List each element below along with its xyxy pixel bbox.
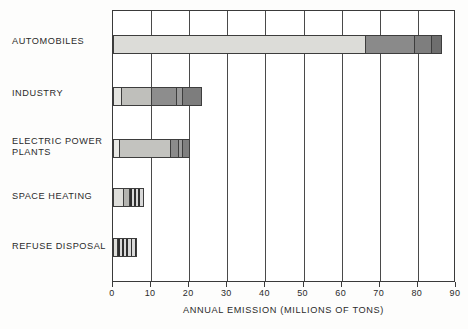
x-tick-label: 80 xyxy=(403,288,431,298)
tick-40 xyxy=(264,282,265,287)
tick-10 xyxy=(150,282,151,287)
bar-segment xyxy=(113,35,366,54)
chart-figure: AUTOMOBILES INDUSTRY ELECTRIC POWER PLAN… xyxy=(0,0,468,329)
bar-segment xyxy=(121,87,152,106)
tick-0 xyxy=(112,282,113,287)
x-tick-label: 70 xyxy=(365,288,393,298)
bar-row xyxy=(113,87,201,106)
bar-segment xyxy=(182,139,191,158)
tick-70 xyxy=(379,282,380,287)
x-tick-label: 40 xyxy=(250,288,278,298)
category-label-electric-power-plants: ELECTRIC POWER PLANTS xyxy=(12,136,112,157)
bar-row xyxy=(113,238,136,257)
x-tick-label: 60 xyxy=(327,288,355,298)
category-label-automobiles: AUTOMOBILES xyxy=(12,36,112,47)
x-axis-title: ANNUAL EMISSION (MILLIONS OF TONS) xyxy=(112,305,455,315)
bar-segment xyxy=(119,139,171,158)
x-tick-label: 90 xyxy=(441,288,468,298)
x-tick-label: 10 xyxy=(136,288,164,298)
x-tick-label: 20 xyxy=(174,288,202,298)
bar-segment xyxy=(129,188,144,207)
bar-row xyxy=(113,139,189,158)
category-label-refuse-disposal: REFUSE DISPOSAL xyxy=(12,241,112,252)
category-label-space-heating: SPACE HEATING xyxy=(12,191,112,202)
bar-row xyxy=(113,188,143,207)
category-label-industry: INDUSTRY xyxy=(12,88,112,99)
bar-segment xyxy=(365,35,416,54)
tick-90 xyxy=(455,282,456,287)
x-tick-label: 0 xyxy=(98,288,126,298)
x-tick-label: 50 xyxy=(289,288,317,298)
tick-60 xyxy=(341,282,342,287)
bar-segment xyxy=(414,35,432,54)
bar-segment xyxy=(117,238,137,257)
bar-segment xyxy=(151,87,177,106)
bar-segment xyxy=(431,35,442,54)
tick-30 xyxy=(226,282,227,287)
plot-area xyxy=(112,10,455,282)
bar-row xyxy=(113,35,441,54)
tick-20 xyxy=(188,282,189,287)
bar-segment xyxy=(182,87,202,106)
tick-80 xyxy=(417,282,418,287)
tick-50 xyxy=(303,282,304,287)
x-tick-label: 30 xyxy=(212,288,240,298)
